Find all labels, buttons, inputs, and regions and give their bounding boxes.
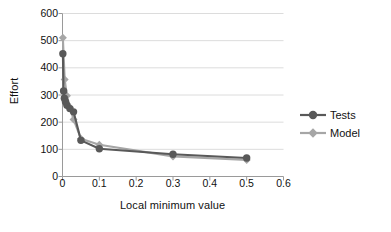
gridlines xyxy=(63,14,284,150)
data-point-model xyxy=(61,76,69,84)
legend-item-tests[interactable]: Tests xyxy=(300,106,386,123)
data-point-tests xyxy=(70,108,77,115)
data-point-tests xyxy=(60,87,67,94)
x-tick-label: 0.4 xyxy=(193,178,227,189)
legend-marker-diamond-icon xyxy=(300,126,326,140)
x-tick-label: 0.3 xyxy=(156,178,190,189)
legend-label-model: Model xyxy=(330,127,360,139)
data-point-tests xyxy=(59,50,66,57)
legend-label-tests: Tests xyxy=(330,109,356,121)
chart-legend: Tests Model xyxy=(300,106,386,142)
data-point-tests xyxy=(96,145,103,152)
data-series xyxy=(59,34,251,164)
series-line-model xyxy=(63,38,247,160)
data-point-tests xyxy=(77,137,84,144)
x-tick-label: 0.5 xyxy=(230,178,264,189)
x-axis-tick-labels: 00.10.20.30.40.50.6 xyxy=(0,178,391,194)
x-tick-label: 0.6 xyxy=(267,178,301,189)
x-tick-label: 0.2 xyxy=(119,178,153,189)
legend-item-model[interactable]: Model xyxy=(300,124,386,141)
x-axis-title: Local minimum value xyxy=(62,199,283,211)
data-point-tests xyxy=(243,154,250,161)
legend-marker-circle-icon xyxy=(300,108,326,122)
x-tick-label: 0 xyxy=(46,178,80,189)
data-point-tests xyxy=(169,151,176,158)
chart-figure: Effort 0100200300400500600 00.10.20.30.4… xyxy=(0,0,391,232)
x-tick-label: 0.1 xyxy=(82,178,116,189)
